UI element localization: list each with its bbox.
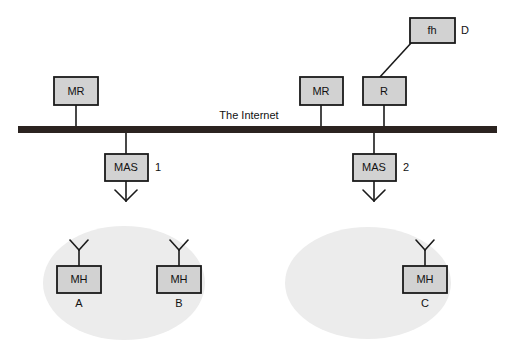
node-fixed-host[interactable]: fh D	[410, 18, 469, 43]
node-mh-c-under-label: C	[421, 297, 429, 309]
node-mas-2-side-label: 2	[403, 161, 409, 173]
diagram-canvas: The Internet	[0, 0, 517, 347]
node-mh-b-box[interactable]	[157, 266, 201, 293]
node-mh-b-under-label: B	[175, 297, 182, 309]
node-mas-2-box[interactable]	[353, 154, 396, 181]
node-mas-1-box[interactable]	[105, 154, 148, 181]
node-mr-left-box[interactable]	[54, 77, 98, 105]
cell-group	[43, 226, 451, 340]
link-fh-router	[379, 42, 412, 78]
node-fixed-host-box[interactable]	[410, 18, 455, 43]
antenna-mas-1-icon	[115, 181, 137, 201]
link-group	[76, 42, 412, 155]
internet-backbone-bar	[18, 126, 497, 133]
node-mas-2[interactable]: MAS 2	[353, 154, 409, 181]
node-mas-1-side-label: 1	[155, 161, 161, 173]
node-router[interactable]: R	[363, 77, 406, 105]
node-fixed-host-side-label: D	[461, 24, 469, 36]
antenna-group-base	[115, 181, 385, 201]
node-mr-right[interactable]: MR	[300, 77, 343, 105]
node-mas-1[interactable]: MAS 1	[105, 154, 161, 181]
node-mh-c-box[interactable]	[403, 266, 447, 293]
internet-backbone-label: The Internet	[219, 109, 278, 121]
node-router-box[interactable]	[363, 77, 406, 105]
node-mh-a-under-label: A	[75, 297, 83, 309]
node-mh-a-box[interactable]	[57, 266, 101, 293]
antenna-mas-2-icon	[363, 181, 385, 201]
node-mr-left[interactable]: MR	[54, 77, 98, 105]
node-mr-right-box[interactable]	[300, 77, 343, 105]
network-diagram: The Internet	[0, 0, 517, 347]
